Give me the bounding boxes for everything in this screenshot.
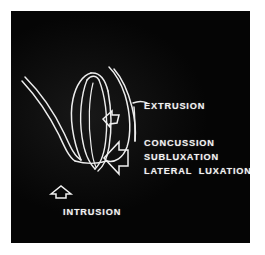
label-intrusion: INTRUSION [63, 208, 121, 217]
label-concussion: CONCUSSION [144, 139, 215, 148]
intrusion-arrow [51, 186, 71, 198]
label-extrusion: EXTRUSION [144, 102, 205, 111]
lateral-luxation-arrow [104, 142, 128, 174]
figure-root: EXTRUSION CONCUSSION SUBLUXATION LATERAL… [0, 0, 265, 255]
arrow-layer [11, 11, 250, 243]
label-lateral-luxation: LATERAL LUXATION [144, 167, 250, 176]
label-subluxation: SUBLUXATION [144, 153, 219, 162]
extrusion-arrow [103, 111, 119, 127]
diagram-panel: EXTRUSION CONCUSSION SUBLUXATION LATERAL… [11, 11, 250, 243]
